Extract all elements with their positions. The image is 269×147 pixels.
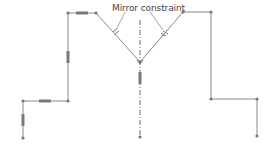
sketch-point <box>209 10 212 13</box>
sketch-point <box>209 97 212 100</box>
horizontal-constraint-icon <box>39 100 51 103</box>
right-polyline <box>140 12 257 136</box>
left-polyline <box>23 13 140 138</box>
leader-line <box>150 12 163 30</box>
mirror-constraint-diagram <box>0 0 269 147</box>
sketch-point <box>255 134 258 137</box>
vertical-constraint-icon <box>22 114 25 126</box>
sketch-point <box>66 99 69 102</box>
sketch-point <box>66 11 69 14</box>
horizontal-constraint-icon <box>76 12 88 15</box>
sketch-point <box>94 11 97 14</box>
vertical-constraint-icon <box>67 51 70 63</box>
sketch-point <box>255 97 258 100</box>
sketch-point <box>138 135 141 138</box>
vertical-constraint-icon <box>139 72 142 84</box>
sketch-point <box>21 99 24 102</box>
sketch-point <box>138 60 141 63</box>
mirror-constraint-label: Mirror constraint <box>112 3 185 13</box>
leader-line <box>116 12 125 30</box>
sketch-point <box>21 136 24 139</box>
constraint-markers <box>22 12 169 127</box>
